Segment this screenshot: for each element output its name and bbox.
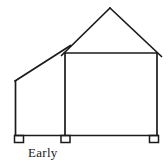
- gable-roof-right-slope-line: [110, 8, 162, 57]
- footing-block-right: [150, 136, 159, 143]
- figure-caption: Early: [28, 145, 58, 161]
- figure-root: Early: [0, 0, 168, 166]
- footing-block-left: [15, 136, 24, 143]
- house-elevation-drawing: [0, 0, 168, 166]
- shed-roof-slope-line: [15, 46, 71, 82]
- gable-roof-left-slope-line: [62, 8, 111, 56]
- footing-block-center: [61, 136, 70, 143]
